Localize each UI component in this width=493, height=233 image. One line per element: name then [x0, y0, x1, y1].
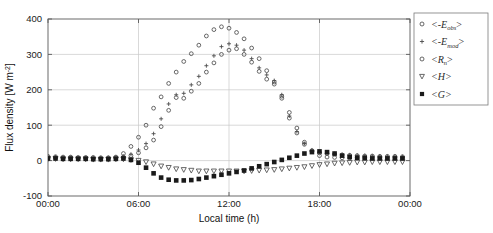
legend-label: <-Eobs>	[431, 19, 462, 32]
ytick-label: 200	[26, 84, 42, 95]
legend-label: <G>	[431, 89, 452, 100]
data-point	[257, 69, 261, 73]
series-rn	[46, 25, 404, 160]
data-point	[212, 174, 217, 179]
data-point	[197, 82, 201, 86]
data-point	[91, 157, 96, 162]
legend-label: <Rn>	[431, 54, 453, 67]
data-point	[235, 43, 239, 47]
data-point	[159, 117, 163, 121]
xtick-label: 06:00	[127, 198, 151, 209]
ytick-label: 300	[26, 49, 42, 60]
data-point	[279, 158, 284, 163]
data-point	[264, 168, 269, 173]
data-point	[204, 175, 209, 180]
data-point	[295, 153, 300, 158]
data-point	[152, 106, 156, 110]
data-point	[309, 164, 314, 169]
data-point	[204, 169, 209, 174]
data-point	[159, 175, 164, 180]
data-point	[287, 111, 291, 115]
data-point	[167, 82, 171, 86]
data-point	[340, 153, 345, 158]
data-point	[76, 157, 81, 162]
data-point	[302, 151, 307, 156]
data-point	[220, 25, 224, 29]
ytick-label: 0	[37, 155, 42, 166]
data-point	[250, 60, 254, 64]
data-point	[393, 156, 398, 161]
data-point	[151, 162, 156, 167]
data-point	[189, 52, 193, 56]
legend-label-subscript: mod	[447, 42, 459, 49]
data-point	[197, 74, 201, 78]
data-point	[212, 28, 216, 32]
data-point	[265, 73, 269, 77]
data-point	[204, 34, 208, 38]
data-point	[279, 167, 284, 172]
data-point	[347, 155, 352, 160]
data-point	[265, 69, 269, 73]
data-point	[287, 166, 292, 171]
data-point	[61, 157, 66, 162]
data-point	[144, 142, 148, 146]
xtick-label: 18:00	[308, 198, 332, 209]
data-point	[197, 177, 202, 182]
legend-label-tail: >	[447, 54, 453, 65]
legend: <-Eobs><-Emod><Rn><H><G>	[414, 13, 488, 105]
data-point	[370, 156, 375, 161]
data-point	[167, 108, 171, 112]
data-point	[235, 47, 239, 51]
data-point	[317, 149, 322, 154]
data-point	[144, 146, 148, 150]
axis-ticks: 4003002001000-10000:0006:0012:0018:0000:…	[23, 13, 422, 209]
data-point	[136, 160, 141, 165]
data-point	[242, 37, 246, 41]
data-point	[182, 60, 186, 64]
data-point	[340, 161, 345, 166]
legend-label-tail: >	[458, 36, 464, 47]
series--eobs	[46, 47, 404, 160]
data-point	[129, 158, 134, 163]
xtick-label: 12:00	[217, 198, 241, 209]
data-point	[129, 152, 133, 156]
ytick-label: 100	[26, 120, 42, 131]
data-point	[204, 64, 208, 68]
data-point	[362, 156, 367, 161]
data-point	[219, 45, 223, 49]
data-point	[46, 156, 51, 161]
data-point	[310, 150, 315, 155]
data-point	[106, 157, 111, 162]
data-point	[287, 155, 292, 160]
data-point	[53, 156, 58, 161]
data-point	[68, 157, 73, 162]
data-point	[174, 167, 179, 172]
legend-label-tail: >	[456, 19, 462, 30]
data-point	[257, 66, 261, 70]
data-point	[295, 126, 299, 130]
data-point	[249, 166, 254, 171]
data-point	[189, 83, 193, 87]
data-point	[159, 164, 164, 169]
data-point	[197, 43, 201, 47]
data-point	[347, 161, 352, 166]
data-point	[204, 70, 208, 74]
data-point	[121, 156, 126, 161]
data-point	[242, 168, 247, 173]
xtick-label: 00:00	[36, 198, 60, 209]
data-point	[174, 178, 179, 183]
y-axis-title: Flux density [W m-2]	[4, 63, 16, 152]
data-point	[181, 178, 186, 183]
data-point	[227, 42, 231, 46]
data-point	[174, 70, 178, 74]
data-point	[332, 161, 337, 166]
data-point	[152, 132, 156, 136]
data-point	[250, 46, 254, 50]
data-point	[152, 138, 156, 142]
data-series-group	[45, 25, 405, 183]
legend-label: <H>	[431, 71, 452, 82]
data-point	[83, 157, 88, 162]
data-point	[257, 57, 261, 61]
data-point	[151, 171, 156, 176]
data-point	[166, 165, 171, 170]
